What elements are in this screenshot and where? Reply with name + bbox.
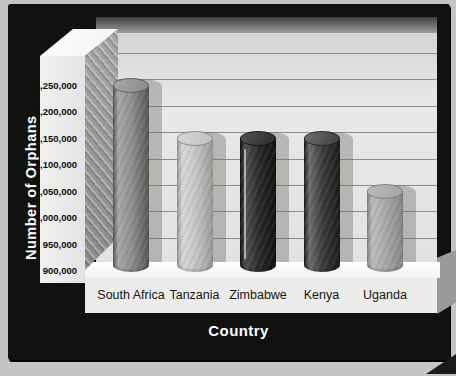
cylinder-tanzania [177,138,213,272]
cylinder-top-kenya [304,131,340,146]
y-axis-title: Number of Orphans [21,100,41,276]
highlight-streak [244,149,246,259]
gridline [96,53,437,54]
cylinder-uganda [367,191,403,272]
orphans-bar-chart: 1,250,0001,200,0001,150,0001,100,0001,05… [0,0,456,376]
cylinder-top-south-africa [113,78,149,93]
cylinder-zimbabwe [240,138,276,272]
cylinder-south-africa [113,85,149,272]
cylinder-kenya [304,138,340,272]
cylinder-top-uganda [367,184,403,199]
category-label-uganda: Uganda [348,281,422,311]
cylinder-top-tanzania [177,131,213,146]
floor-side-face [437,250,456,314]
plot-wall-top-bevel [96,17,437,33]
cylinder-top-zimbabwe [240,131,276,146]
x-axis-title: Country [40,322,437,339]
y-tick-label: 1,250,000 [34,80,80,91]
